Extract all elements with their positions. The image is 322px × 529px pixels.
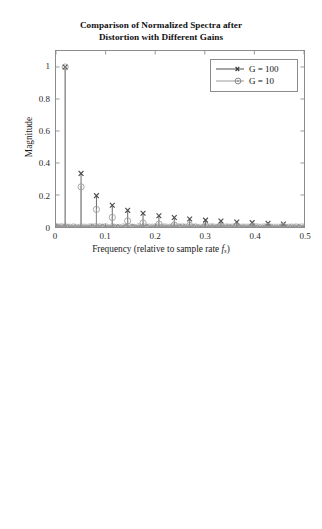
figure-1-ytick-1: 0.2 [28, 191, 50, 201]
figure-1-legend: G = 100 G = 10 [210, 59, 298, 92]
figure-1-xaxis-title-suffix: ) [227, 244, 230, 254]
figure-1-legend-row-0: G = 100 [215, 63, 292, 75]
x-marker-icon [215, 64, 245, 74]
figure-1-legend-label-1: G = 10 [249, 76, 274, 86]
spectrum-figure-gains: Comparison of Normalized Spectra after D… [0, 0, 322, 265]
figure-1-yaxis-title: Magnitude [24, 97, 34, 177]
circle-marker-icon [215, 76, 245, 86]
spectrum-figure-clipping: Comparison of Normalized Spectra after D… [0, 265, 322, 529]
figure-1-ytick-0: 0 [38, 223, 50, 233]
figure-1-title: Comparison of Normalized Spectra after D… [0, 20, 322, 43]
figure-1-ytick-5: 1 [38, 61, 50, 71]
figure-1-xtick-0: 0 [53, 231, 58, 241]
figure-1-xaxis-title: Frequency (relative to sample rate fs) [0, 244, 322, 254]
figure-1-title-line2: Distortion with Different Gains [99, 32, 223, 42]
figure-1-title-line1: Comparison of Normalized Spectra after [80, 20, 242, 30]
figure-1-xtick-4: 0.4 [249, 231, 260, 241]
figure-1-xaxis-title-prefix: Frequency (relative to sample rate [92, 244, 221, 254]
figure-page: Comparison of Normalized Spectra after D… [0, 0, 322, 529]
figure-1-legend-label-0: G = 100 [249, 64, 279, 74]
figure-1-legend-row-1: G = 10 [215, 75, 292, 87]
figure-1-xtick-2: 0.2 [149, 231, 160, 241]
figure-1-xtick-1: 0.1 [99, 231, 110, 241]
figure-1-xtick-3: 0.3 [199, 231, 210, 241]
figure-1-xtick-5: 0.5 [299, 231, 310, 241]
